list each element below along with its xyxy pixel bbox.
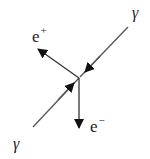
positron-symbol: e [32, 27, 40, 46]
gamma-symbol: γ [13, 135, 19, 152]
gamma-label-bottom: γ [13, 136, 19, 152]
gamma-label-top: γ [132, 5, 138, 21]
gamma-symbol: γ [132, 4, 138, 21]
electron-label: e− [90, 118, 105, 135]
positron-arrow [38, 49, 79, 78]
photon-upper-line [80, 27, 128, 77]
electron-symbol: e [90, 117, 98, 136]
positron-label: e+ [32, 28, 47, 45]
positron-charge: + [41, 24, 47, 36]
electron-charge: − [99, 114, 105, 126]
pair-production-diagram [0, 0, 150, 159]
photon-lower-line [33, 78, 79, 127]
